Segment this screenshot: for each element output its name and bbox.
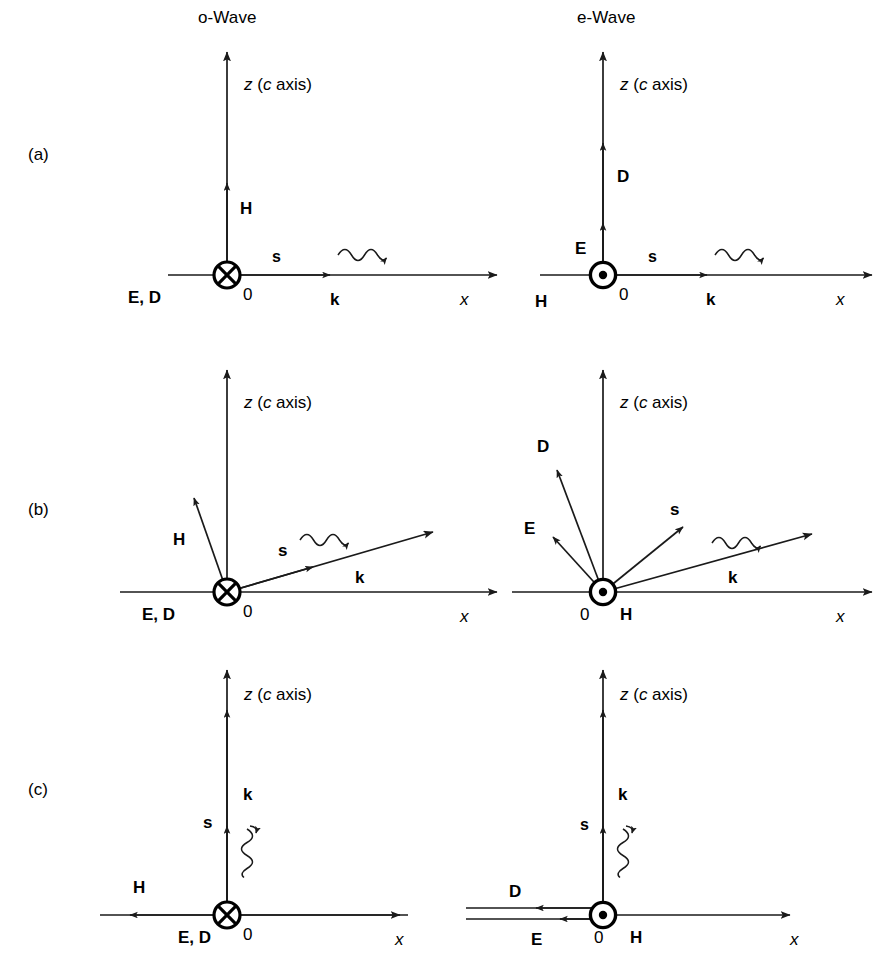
origin-label: 0 [243,285,252,304]
vector-D-arrow [557,470,603,592]
origin-label: 0 [619,285,628,304]
z-axis-label: z (c axis) [619,393,688,412]
vector-s-label: s [670,500,679,519]
vector-D-label: D [509,882,521,901]
wave-squiggle-icon [618,829,629,878]
vector-E-label: E [524,519,535,538]
z-axis-label: z (c axis) [243,393,312,412]
origin-out-of-page-icon [590,902,615,927]
panel-c-e-wave: z (c axis) x k s D E 0 H [466,670,799,949]
vector-k-arrow [603,534,812,592]
vector-ED-label: E, D [142,605,175,624]
wave-squiggle-icon [300,535,349,546]
wave-squiggle-icon [242,829,253,878]
vector-k-label: k [330,290,340,309]
z-axis-label: z (c axis) [243,685,312,704]
origin-out-of-page-icon [590,262,615,287]
vector-k-label: k [243,785,253,804]
vector-s-label: s [272,248,281,265]
vector-ED-label: E, D [178,928,211,947]
vector-H-label: H [535,292,547,311]
panel-b-o-wave: z (c axis) x H k s 0 E, D [120,370,497,626]
z-axis-label: z (c axis) [619,75,688,94]
origin-out-of-page-icon [590,579,615,604]
wave-propagation-figure: o-Wave e-Wave (a) (b) (c) z (c axis) x [0,0,878,968]
vector-ED-label: E, D [128,288,161,307]
origin-into-page-icon [214,262,240,288]
vector-H-label: H [173,530,185,549]
panel-a-e-wave: z (c axis) x D E k s 0 H [535,52,872,311]
vector-H-label: H [240,199,252,218]
panel-c-o-wave: z (c axis) x k s H 0 E, D [100,670,408,949]
origin-label: 0 [243,602,252,621]
vector-E-label: E [575,239,586,258]
vector-s-arrow [603,527,683,592]
vector-k-label: k [706,290,716,309]
panel-b-e-wave: z (c axis) x D E s k 0 H [512,370,872,626]
origin-label: 0 [580,605,589,624]
origin-into-page-icon [214,579,240,605]
x-axis-label: x [835,290,845,309]
vector-k-label: k [618,785,628,804]
vector-D-label: D [617,167,629,186]
vector-H-arrow [194,498,227,592]
x-axis-label: x [459,290,469,309]
z-axis-label: z (c axis) [243,75,312,94]
x-axis-label: x [459,607,469,626]
wave-squiggle-icon [715,250,764,261]
vector-s-label: s [648,248,657,265]
vector-E-label: E [531,930,542,949]
vector-H-label: H [133,878,145,897]
vector-s-label: s [278,541,287,560]
x-axis-label: x [394,930,404,949]
x-axis-label: x [835,607,845,626]
vector-H-label: H [630,928,642,947]
vector-D-label: D [537,437,549,456]
wave-squiggle-icon [338,250,387,261]
diagram-canvas: z (c axis) x H k s 0 E, D [0,0,878,968]
origin-into-page-icon [214,902,240,928]
vector-s-label: s [580,816,589,833]
vector-k-label: k [728,568,738,587]
origin-label: 0 [594,928,603,947]
wave-squiggle-icon [712,538,761,549]
x-axis-label: x [789,930,799,949]
vector-s-label: s [203,813,212,832]
origin-label: 0 [243,925,252,944]
z-axis-label: z (c axis) [619,685,688,704]
vector-H-label: H [620,605,632,624]
panel-a-o-wave: z (c axis) x H k s 0 E, D [128,52,497,309]
vector-k-label: k [355,568,365,587]
